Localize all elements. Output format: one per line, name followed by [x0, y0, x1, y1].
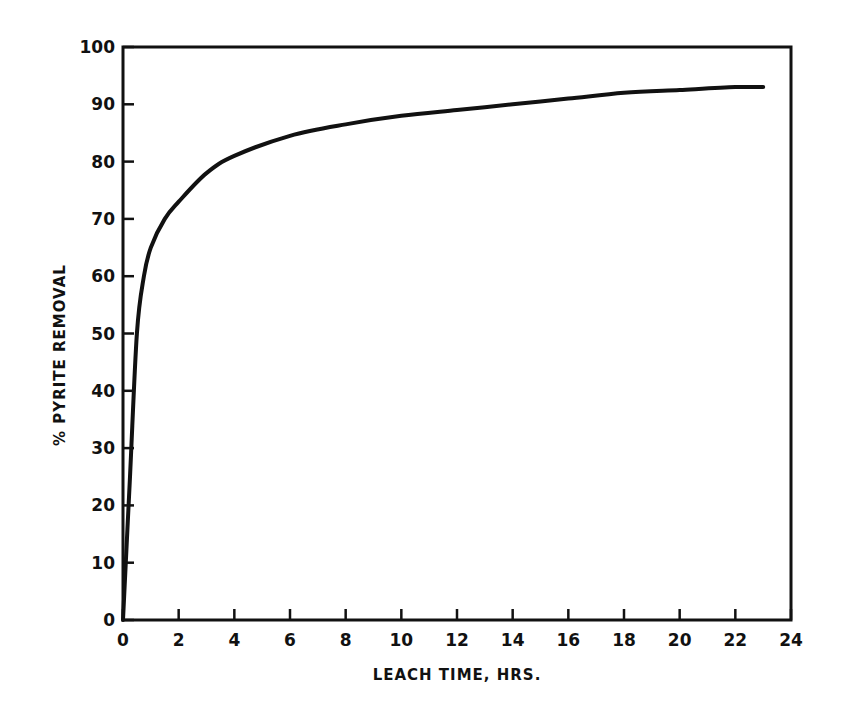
x-tick-label: 2: [173, 630, 185, 650]
chart: 024681012141618202224 010203040506070809…: [0, 0, 844, 717]
x-tick-label: 18: [612, 630, 636, 650]
x-tick-label: 24: [779, 630, 803, 650]
y-tick-label: 90: [91, 94, 115, 114]
y-tick-label: 50: [91, 324, 115, 344]
x-tick-label: 0: [117, 630, 129, 650]
y-tick-label: 40: [91, 381, 115, 401]
x-tick-label: 16: [556, 630, 580, 650]
y-tick-label: 70: [91, 209, 115, 229]
y-tick-label: 60: [91, 266, 115, 286]
y-tick-label: 0: [103, 610, 115, 630]
x-axis-title: LEACH TIME, HRS.: [373, 666, 542, 684]
plot-frame: [123, 47, 791, 620]
x-tick-label: 20: [668, 630, 692, 650]
y-tick-label: 30: [91, 438, 115, 458]
plot-border: [123, 47, 791, 620]
x-axis: 024681012141618202224: [117, 609, 803, 650]
y-tick-label: 100: [80, 37, 116, 57]
y-tick-label: 20: [91, 495, 115, 515]
y-tick-label: 10: [91, 553, 115, 573]
x-tick-label: 10: [389, 630, 413, 650]
x-tick-label: 22: [723, 630, 747, 650]
pyrite-removal-line: [123, 87, 763, 620]
y-axis-title: % PYRITE REMOVAL: [51, 264, 69, 446]
y-tick-label: 80: [91, 152, 115, 172]
x-tick-label: 8: [340, 630, 352, 650]
x-tick-label: 4: [228, 630, 240, 650]
x-tick-label: 14: [501, 630, 525, 650]
x-tick-label: 6: [284, 630, 296, 650]
x-tick-label: 12: [445, 630, 469, 650]
